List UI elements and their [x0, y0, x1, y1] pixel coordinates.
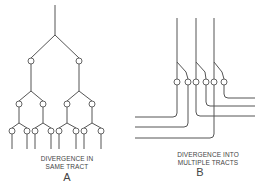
panel-b-tracts — [135, 18, 255, 138]
node-circle — [73, 128, 79, 134]
panel-a-tree — [9, 5, 104, 149]
node-circle — [9, 128, 15, 134]
panel-a-caption-line2: SAME TRACT — [22, 163, 112, 171]
node-circle — [81, 128, 87, 134]
node-circle — [89, 101, 95, 107]
panel-b-caption: DIVERGENCE INTO MULTIPLE TRACTS — [158, 151, 258, 166]
node-circle — [76, 58, 82, 64]
node-circle — [211, 79, 217, 85]
node-circle — [40, 101, 46, 107]
node-circle — [203, 79, 209, 85]
panel-b-letter: B — [185, 166, 215, 178]
panel-a-caption-line1: DIVERGENCE IN — [22, 155, 112, 163]
node-circle — [16, 101, 22, 107]
panel-b-caption-line1: DIVERGENCE INTO — [158, 151, 258, 159]
node-circle — [56, 128, 62, 134]
node-circle — [185, 79, 191, 85]
node-circle — [48, 128, 54, 134]
node-circle — [24, 128, 30, 134]
panel-a-caption: DIVERGENCE IN SAME TRACT — [22, 155, 112, 170]
node-circle — [174, 79, 180, 85]
node-circle — [193, 79, 199, 85]
node-circle — [64, 101, 70, 107]
panel-a-letter: A — [52, 171, 82, 183]
node-circle — [221, 79, 227, 85]
node-circle — [28, 58, 34, 64]
node-circle — [98, 128, 104, 134]
node-circle — [32, 128, 38, 134]
panel-b-caption-line2: MULTIPLE TRACTS — [158, 159, 258, 167]
